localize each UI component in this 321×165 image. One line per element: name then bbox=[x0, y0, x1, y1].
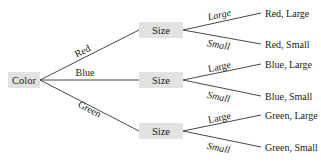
leaf-green-large: Green, Large bbox=[265, 110, 318, 121]
root-node-color: Color bbox=[8, 72, 40, 88]
edge-label-green-large: Large bbox=[207, 110, 232, 126]
edge-label-blue-large: Large bbox=[207, 59, 232, 75]
leaf-red-small: Red, Small bbox=[265, 39, 310, 50]
size-node-green: Size bbox=[139, 123, 183, 139]
leaf-green-small: Green, Small bbox=[265, 142, 318, 153]
leaf-red-large: Red, Large bbox=[265, 8, 310, 19]
edge-label-green: Green bbox=[76, 98, 103, 119]
size-node-label: Size bbox=[152, 25, 170, 36]
size-node-label: Size bbox=[152, 126, 170, 137]
size-node-label: Size bbox=[152, 75, 170, 86]
edge-label-red-small: Small bbox=[206, 37, 231, 52]
tree-diagram: Color Size Size Size Red Blue Green Larg… bbox=[0, 0, 321, 165]
edge-label-red: Red bbox=[73, 42, 92, 59]
edge-label-blue: Blue bbox=[76, 67, 95, 78]
size-node-blue: Size bbox=[139, 72, 183, 88]
size-node-red: Size bbox=[139, 22, 183, 38]
leaf-blue-large: Blue, Large bbox=[265, 59, 313, 70]
edge-label-blue-small: Small bbox=[206, 89, 231, 104]
leaf-blue-small: Blue, Small bbox=[265, 91, 312, 102]
root-node-label: Color bbox=[12, 75, 36, 86]
edge-label-green-small: Small bbox=[206, 140, 231, 155]
